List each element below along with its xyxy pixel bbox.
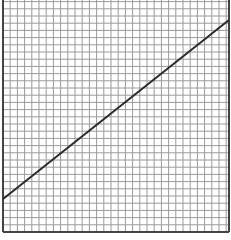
grid-diagram — [0, 0, 231, 240]
background — [0, 0, 231, 240]
